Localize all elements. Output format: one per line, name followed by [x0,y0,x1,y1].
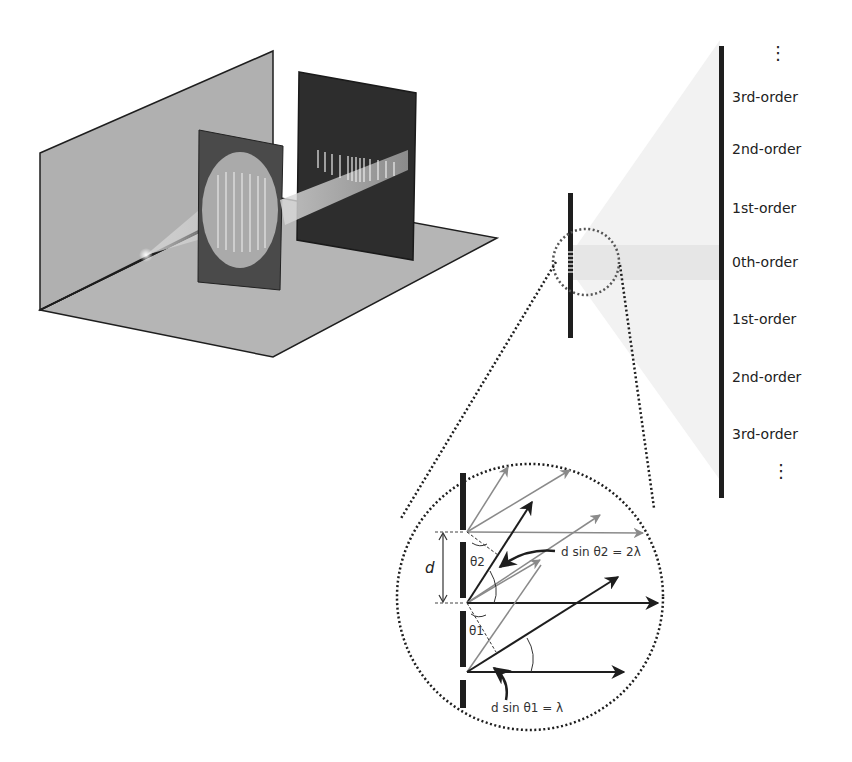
order-label-1st-bottom: 1st-order [732,311,796,327]
theta1-label: θ1 [469,624,484,638]
3d-setup [40,51,497,357]
d-label: d [425,559,435,577]
equation-first-order: d sin θ1 = λ [491,701,563,715]
inset-detail [397,464,663,730]
diagram-canvas [0,0,852,762]
diffraction-schematic [400,40,724,520]
order-label-3rd-top: 3rd-order [732,89,798,105]
equation-second-order: d sin θ2 = 2λ [561,545,641,559]
order-label-1st-top: 1st-order [732,200,796,216]
order-label-3rd-bottom: 3rd-order [732,426,798,442]
order-label-2nd-top: 2nd-order [732,141,801,157]
order-label-0th: 0th-order [732,254,798,270]
grating-bar [568,193,573,338]
ellipsis-top: ⋮ [769,44,775,62]
light-source-icon [139,248,153,262]
order-label-2nd-bottom: 2nd-order [732,369,801,385]
theta2-label: θ2 [470,555,485,569]
ellipsis-bottom: ⋮ [772,462,778,480]
screen-bar [719,46,724,498]
